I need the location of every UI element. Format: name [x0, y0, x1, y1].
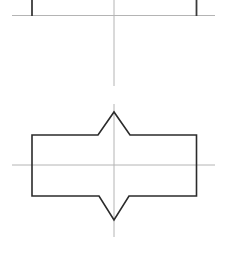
centerline-group — [12, 0, 215, 237]
drawing-svg-root — [0, 0, 225, 265]
technical-drawing-canvas — [0, 0, 225, 265]
